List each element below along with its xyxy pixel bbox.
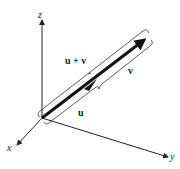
x-axis-label: x: [6, 142, 12, 153]
y-axis: [42, 118, 168, 157]
sum-label: u + v: [65, 55, 86, 66]
x-axis: [17, 118, 42, 145]
component-brackets: [44, 40, 152, 124]
y-axis-label: y: [169, 151, 175, 162]
z-axis-label: z: [37, 9, 42, 20]
vector-diagram: z x y u + v v u: [0, 0, 180, 169]
diagram-canvas: z x y u + v v u: [0, 0, 180, 169]
v-label: v: [128, 65, 133, 76]
vector-sum-arrow: [42, 40, 144, 118]
u-label: u: [78, 107, 84, 118]
